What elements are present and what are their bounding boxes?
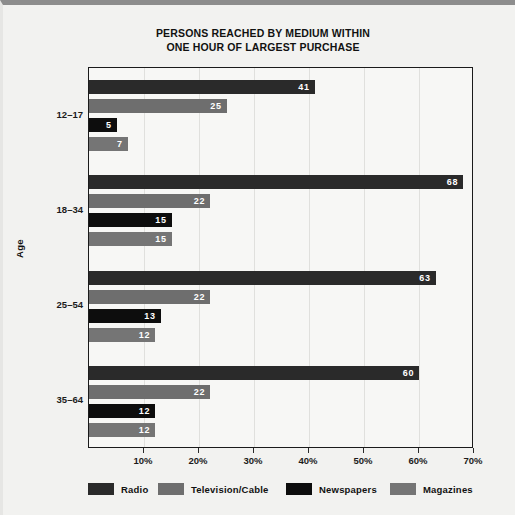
x-tick-mark	[143, 448, 144, 453]
bar-newspapers-35-64: 12	[89, 404, 155, 418]
plot-area: 412557682215156322131260221212	[88, 67, 473, 448]
legend-item-radio[interactable]: Radio	[88, 481, 148, 497]
chart-figure: PERSONS REACHED BY MEDIUM WITHIN ONE HOU…	[0, 0, 515, 515]
bar-value-label: 7	[117, 140, 123, 149]
bar-newspapers-18-34: 15	[89, 213, 172, 227]
x-tick-label: 50%	[343, 455, 383, 466]
legend-label: Radio	[121, 484, 148, 495]
bar-magazines-25-54: 12	[89, 328, 155, 342]
y-axis-group-label: 12–17	[25, 109, 83, 120]
bar-value-label: 63	[419, 273, 430, 282]
bar-newspapers-12-17: 5	[89, 118, 117, 132]
bar-value-label: 12	[139, 406, 150, 415]
x-tick-label: 10%	[123, 455, 163, 466]
chart-title: PERSONS REACHED BY MEDIUM WITHIN ONE HOU…	[58, 27, 468, 54]
bar-value-label: 22	[194, 197, 205, 206]
x-tick-label: 20%	[178, 455, 218, 466]
bar-value-label: 5	[106, 121, 112, 130]
bar-magazines-18-34: 15	[89, 232, 172, 246]
bar-radio-18-34: 68	[89, 175, 463, 189]
bar-value-label: 68	[447, 178, 458, 187]
bar-value-label: 22	[194, 387, 205, 396]
legend-label: Television/Cable	[191, 484, 268, 495]
bar-newspapers-25-54: 13	[89, 309, 161, 323]
y-axis-group-label: 18–34	[25, 204, 83, 215]
legend-item-newspapers[interactable]: Newspapers	[286, 481, 377, 497]
legend-swatch	[88, 483, 114, 495]
legend-label: Newspapers	[319, 484, 377, 495]
bar-radio-25-54: 63	[89, 271, 436, 285]
y-axis-title: Age	[14, 219, 25, 279]
x-tick-label: 70%	[453, 455, 493, 466]
x-tick-label: 40%	[288, 455, 328, 466]
legend-swatch	[390, 483, 416, 495]
bar-value-label: 15	[155, 235, 166, 244]
x-tick-mark	[198, 448, 199, 453]
chart-title-line-1: PERSONS REACHED BY MEDIUM WITHIN	[58, 27, 468, 41]
x-tick-mark	[363, 448, 364, 453]
x-tick-mark	[418, 448, 419, 453]
y-axis-group-label: 25–54	[25, 299, 83, 310]
legend-swatch	[286, 483, 312, 495]
x-tick-label: 60%	[398, 455, 438, 466]
legend-label: Magazines	[423, 484, 473, 495]
x-tick-mark	[253, 448, 254, 453]
bar-value-label: 22	[194, 292, 205, 301]
bar-value-label: 60	[403, 368, 414, 377]
bar-value-label: 25	[210, 102, 221, 111]
bar-magazines-35-64: 12	[89, 423, 155, 437]
bar-value-label: 12	[139, 425, 150, 434]
bar-value-label: 12	[139, 330, 150, 339]
chart-title-line-2: ONE HOUR OF LARGEST PURCHASE	[58, 41, 468, 55]
bar-radio-12-17: 41	[89, 80, 315, 94]
x-tick-mark	[308, 448, 309, 453]
bar-television-cable-25-54: 22	[89, 290, 210, 304]
bar-television-cable-18-34: 22	[89, 194, 210, 208]
bar-value-label: 13	[144, 311, 155, 320]
bar-television-cable-12-17: 25	[89, 99, 227, 113]
x-tick-mark	[473, 448, 474, 453]
y-axis-group-label: 35–64	[25, 394, 83, 405]
legend-item-magazines[interactable]: Magazines	[390, 481, 473, 497]
legend-swatch	[158, 483, 184, 495]
bar-radio-35-64: 60	[89, 366, 419, 380]
legend-item-television-cable[interactable]: Television/Cable	[158, 481, 268, 497]
bar-value-label: 41	[298, 83, 309, 92]
chart-legend: RadioTelevision/CableNewspapersMagazines	[88, 481, 478, 497]
bars-layer: 412557682215156322131260221212	[89, 68, 472, 447]
bar-magazines-12-17: 7	[89, 137, 128, 151]
bar-television-cable-35-64: 22	[89, 385, 210, 399]
bar-value-label: 15	[155, 216, 166, 225]
x-tick-label: 30%	[233, 455, 273, 466]
